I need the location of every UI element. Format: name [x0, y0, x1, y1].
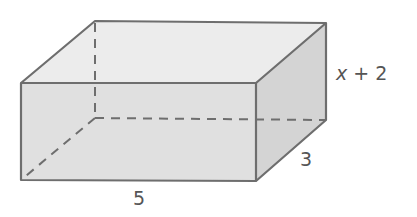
width-label: 5	[133, 187, 145, 209]
height-variable: x	[335, 62, 348, 84]
prism-diagram: x + 2 3 5	[0, 0, 417, 217]
depth-label: 3	[300, 148, 312, 170]
height-label: x + 2	[335, 62, 387, 84]
front-face	[21, 83, 256, 181]
height-constant: + 2	[347, 62, 387, 84]
